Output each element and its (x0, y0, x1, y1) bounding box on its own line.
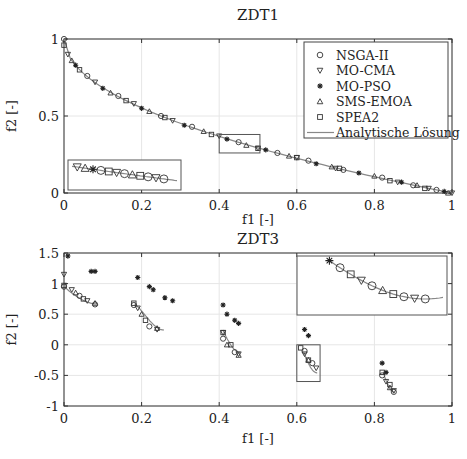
x-axis-label: f1 [-] (242, 212, 274, 227)
y-tick-label: 0 (51, 338, 59, 353)
chart-title: ZDT3 (237, 230, 279, 248)
legend: NSGA-IIMO-CMAMO-PSOSMS-EMOASPEA2Analytis… (304, 42, 460, 140)
legend-entry: SPEA2 (336, 110, 379, 125)
legend-entry: MO-PSO (336, 79, 391, 94)
figure: 00.20.40.60.8100.51ZDT1f1 [-]f2 [-]00.20… (0, 0, 467, 459)
x-tick-label: 0.4 (209, 198, 230, 213)
x-tick-label: 1 (448, 198, 456, 213)
x-tick-label: 0 (60, 198, 68, 213)
x-tick-label: 0.4 (209, 411, 230, 426)
y-tick-label: 1 (51, 277, 59, 292)
y-tick-label: 0 (51, 186, 59, 201)
x-tick-label: 0.2 (131, 198, 152, 213)
y-tick-label: 1.5 (38, 246, 59, 261)
inset-axes (68, 160, 181, 190)
y-tick-label: 1 (51, 32, 59, 47)
chart-zdt3: 00.20.40.60.81-1-0.500.511.5ZDT3f1 [-]f2… (4, 230, 456, 446)
y-axis-label: f2 [-] (4, 314, 19, 346)
y-tick-label: 0.5 (38, 109, 59, 124)
x-tick-label: 0.8 (364, 411, 385, 426)
x-tick-label: 0.6 (286, 411, 307, 426)
x-tick-label: 1 (448, 411, 456, 426)
legend-entry: MO-CMA (336, 63, 396, 78)
legend-entry: Analytische Lösung (335, 125, 460, 140)
y-axis-label: f2 [-] (4, 100, 19, 132)
legend-entry: NSGA-II (336, 48, 389, 63)
y-tick-label: -0.5 (34, 368, 59, 383)
x-tick-label: 0 (60, 411, 68, 426)
x-tick-label: 0.2 (131, 411, 152, 426)
y-tick-label: 0.5 (38, 307, 59, 322)
inset-axes (297, 256, 447, 315)
y-tick-label: -1 (46, 399, 59, 414)
chart-title: ZDT1 (237, 6, 279, 24)
x-axis-label: f1 [-] (242, 431, 274, 446)
x-tick-label: 0.8 (364, 198, 385, 213)
legend-entry: SMS-EMOA (336, 94, 413, 109)
x-tick-label: 0.6 (286, 198, 307, 213)
